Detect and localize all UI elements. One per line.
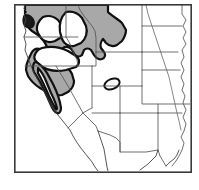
map-canvas <box>0 0 199 190</box>
map-figure <box>0 0 199 190</box>
range-map-screenshot <box>0 0 199 190</box>
